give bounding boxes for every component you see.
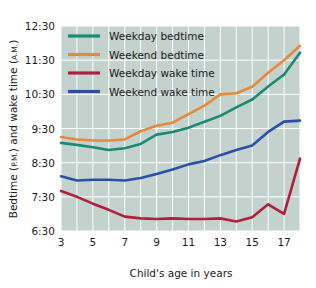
chart-canvas: 6:307:308:309:3010:3011:3012:30 35791113… — [0, 0, 316, 288]
y-tick-label: 10:30 — [25, 88, 55, 100]
legend-label-2: Weekday wake time — [109, 67, 215, 79]
x-axis-title: Child's age in years — [130, 267, 233, 279]
y-tick-label: 12:30 — [25, 20, 55, 32]
y-tick-label: 6:30 — [31, 225, 55, 237]
x-tick-label: 13 — [214, 236, 227, 248]
x-tick-label: 11 — [182, 236, 195, 248]
y-axis-title: Bedtime (P.M.) and wake time (A.M.) — [7, 40, 19, 219]
x-tick-label: 5 — [90, 236, 97, 248]
x-tick-label: 9 — [153, 236, 160, 248]
y-tick-label: 11:30 — [25, 54, 55, 66]
x-tick-label: 7 — [121, 236, 128, 248]
legend-label-3: Weekend wake time — [109, 86, 215, 98]
x-tick-label: 15 — [246, 236, 259, 248]
y-tick-label: 7:30 — [31, 191, 55, 203]
sleep-times-line-chart: 6:307:308:309:3010:3011:3012:30 35791113… — [0, 0, 316, 288]
x-tick-label: 3 — [58, 236, 65, 248]
legend-label-1: Weekend bedtime — [109, 49, 204, 61]
y-tick-label: 8:30 — [31, 157, 55, 169]
y-tick-label: 9:30 — [31, 123, 55, 135]
legend-label-0: Weekday bedtime — [109, 30, 204, 42]
x-tick-label: 17 — [277, 236, 290, 248]
